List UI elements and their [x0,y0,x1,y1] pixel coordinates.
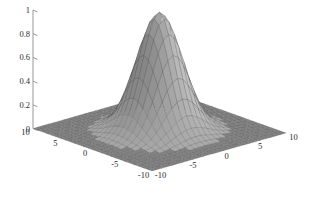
axis-tick-mark [33,57,38,59]
z-tick-label-2: 0.4 [19,76,30,86]
x-tick-label-2: 0 [224,151,228,161]
axis-tick-mark [33,105,38,107]
axis-tick-mark [33,34,38,36]
y-tick-label-4: 10 [21,127,30,137]
x-tick-label-1: -5 [189,160,196,170]
x-tick-label-4: 10 [289,132,298,142]
z-tick-label-5: 1 [26,5,30,15]
x-tick-label-0: -10 [155,170,166,180]
axis-lines [33,10,38,131]
surface-plot-canvas: 00.20.40.60.81-10-50510-10-50510 [0,0,315,206]
y-tick-label-0: -10 [138,170,149,180]
x-tick-label-3: 5 [258,141,262,151]
axis-tick-mark [33,10,38,12]
y-tick-label-2: 0 [83,148,87,158]
y-tick-label-1: -5 [111,159,118,169]
z-tick-label-1: 0.2 [19,100,30,110]
surface-plot-figure: 00.20.40.60.81-10-50510-10-50510 [0,0,315,206]
surface-mesh [33,12,286,171]
z-tick-label-4: 0.8 [19,29,30,39]
z-tick-label-3: 0.6 [19,52,30,62]
y-tick-label-3: 5 [53,138,57,148]
axis-tick-mark [33,81,38,83]
